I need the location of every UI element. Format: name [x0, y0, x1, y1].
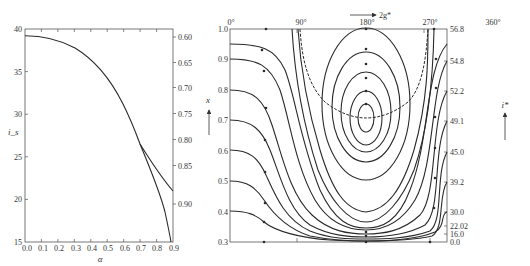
y2-tick-label: 0.90 [178, 200, 192, 209]
y2-tick-label: 0.0 [450, 238, 460, 247]
left-top-ticks [41, 29, 156, 32]
y2-tick-label: 49.1 [450, 117, 464, 126]
x-tick-label: 0.4 [87, 244, 97, 253]
y-tick-label: 40 [14, 25, 22, 34]
y-tick-label: 35 [14, 68, 22, 77]
x-tick-label: 0.7 [136, 244, 146, 253]
left-y2-ticks [173, 37, 176, 204]
x-tick-label: 0.0 [22, 244, 32, 253]
right-y-axis-title: x [205, 95, 210, 105]
left-bottom-ticks [41, 239, 156, 242]
left-y-axis-title: i_s [8, 127, 19, 137]
x-tick-label: 180° [359, 18, 374, 27]
left-y2-tick-labels: 0.60 0.65 0.70 0.75 0.80 0.85 0.90 [178, 33, 192, 209]
figure: 40 35 30 25 20 15 i_s 0.0 0.1 0.2 0.3 0.… [0, 0, 530, 266]
right-y2-axis-title: i* [501, 100, 509, 110]
y2-tick-label: 56.8 [450, 25, 464, 34]
trajectories [230, 28, 447, 241]
y2-tick-label: 0.65 [178, 59, 192, 68]
left-x-axis-title: α [98, 254, 103, 264]
x-tick-label: 0.8 [152, 244, 162, 253]
y2-tick-label: 45.0 [450, 148, 464, 157]
y-tick-label: 0.9 [218, 55, 228, 64]
x-tick-label: 360° [485, 18, 500, 27]
left-plot-frame [25, 29, 173, 242]
left-x-tick-labels: 0.0 0.1 0.2 0.3 0.4 0.5 0.6 0.7 0.8 0.9 [22, 244, 179, 253]
x-tick-label: 0.5 [103, 244, 113, 253]
y2-tick-label: 39.2 [450, 178, 464, 187]
left-chart: 40 35 30 25 20 15 i_s 0.0 0.1 0.2 0.3 0.… [8, 25, 192, 264]
y2-tick-label: 0.80 [178, 136, 192, 145]
y2-tick-label: 0.75 [178, 110, 192, 119]
y-tick-label: 25 [14, 153, 22, 162]
y-tick-label: 0.3 [218, 238, 228, 247]
right-y2-tick-labels: 56.8 54.8 52.2 49.1 45.0 39.2 30.0 22.02… [450, 25, 468, 247]
right-y2-ticks [444, 61, 447, 234]
left-y-ticks [25, 72, 28, 200]
y2-tick-label: 0.85 [178, 162, 192, 171]
y-tick-label: 0.7 [218, 116, 228, 125]
right-y-tick-labels: 1.0 0.9 0.8 0.7 0.6 0.5 0.4 0.3 [218, 25, 228, 247]
x-tick-label: 0.9 [169, 244, 179, 253]
x-tick-label: 0.3 [71, 244, 81, 253]
right-chart: 2g* 0° 90° 180° 270° 360° 1.0 0.9 0.8 0.… [205, 11, 509, 247]
right-x-ticks [297, 29, 430, 242]
y2-tick-label: 0.70 [178, 84, 192, 93]
x-tick-label: 0.6 [120, 244, 130, 253]
y2-tick-label: 30.0 [450, 208, 464, 217]
y-tick-label: 0.4 [218, 208, 228, 217]
y-tick-label: 15 [14, 238, 22, 247]
top-annotation: 2g* [379, 11, 391, 20]
y-tick-label: 0.5 [218, 177, 228, 186]
direction-markers [261, 28, 438, 244]
y2-tick-label: 52.2 [450, 87, 464, 96]
x-tick-label: 0.1 [38, 244, 48, 253]
y-tick-label: 20 [14, 195, 22, 204]
x-tick-label: 0° [227, 18, 234, 27]
left-curve-upper [25, 36, 173, 191]
left-curve-lower [140, 144, 171, 242]
x-tick-label: 90° [295, 18, 306, 27]
y-tick-label: 30 [14, 110, 22, 119]
y2-tick-label: 54.8 [450, 57, 464, 66]
x-tick-label: 0.2 [54, 244, 64, 253]
y-tick-label: 0.8 [218, 86, 228, 95]
x-tick-label: 270° [422, 18, 437, 27]
y-tick-label: 1.0 [218, 25, 228, 34]
y2-tick-label: 0.60 [178, 33, 192, 42]
y-tick-label: 0.6 [218, 147, 228, 156]
